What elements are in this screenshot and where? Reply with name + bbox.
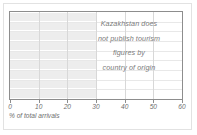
tick-label: 50 xyxy=(143,103,163,110)
bar xyxy=(10,23,96,31)
x-axis-title: % of total arrivals xyxy=(9,112,60,119)
bar xyxy=(10,32,96,40)
tick-label: 30 xyxy=(86,103,106,110)
annotation-line-1: Kazakhstan does xyxy=(86,17,172,32)
bar xyxy=(10,13,96,21)
tick-label: 10 xyxy=(29,103,49,110)
bar xyxy=(10,90,96,98)
gridline-vertical xyxy=(67,12,68,99)
gridline-vertical xyxy=(39,12,40,99)
bar xyxy=(10,52,96,60)
chart-figure: Kazakhstan does not publish tourism figu… xyxy=(0,0,197,135)
chart-annotation: Kazakhstan does not publish tourism figu… xyxy=(86,17,172,75)
tick-label: 20 xyxy=(57,103,77,110)
tick-label: 60 xyxy=(172,103,192,110)
bar xyxy=(10,61,96,69)
bar xyxy=(10,42,96,50)
bar xyxy=(10,81,96,89)
tick-label: 40 xyxy=(115,103,135,110)
tick-label: 0 xyxy=(0,103,20,110)
annotation-line-2: not publish tourism xyxy=(86,32,172,47)
bar xyxy=(10,71,96,79)
annotation-line-4: country of origin xyxy=(86,61,172,76)
annotation-line-3: figures by xyxy=(86,46,172,61)
